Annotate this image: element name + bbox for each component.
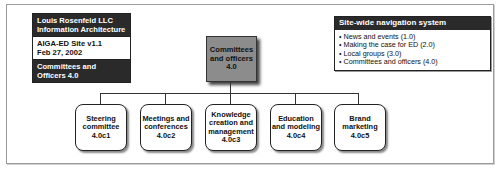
node-id: 4.0c3 xyxy=(206,136,256,144)
nav-title: Site-wide navigation system xyxy=(335,17,490,30)
child-node-meetings: Meetings and conferences 4.0c2 xyxy=(140,104,192,151)
connector-c4 xyxy=(295,93,296,104)
nav-item: Committees and officers (4.0) xyxy=(339,58,486,67)
root-node: Committees and officers 4.0 xyxy=(206,36,257,82)
info-box: Louis Rosenfeld LLC Information Architec… xyxy=(32,13,131,83)
connector-c5 xyxy=(358,93,359,104)
connector-c1 xyxy=(100,93,101,104)
child-node-steering: Steering committee 4.0c1 xyxy=(75,104,127,151)
node-id: 4.0c4 xyxy=(271,132,321,140)
date: Feb 27, 2002 xyxy=(37,48,82,57)
page-title: Committees and Officers 4.0 xyxy=(37,62,96,80)
site-version: AIGA-ED Site v1.1 xyxy=(37,39,102,48)
root-id: 4.0 xyxy=(207,63,256,72)
node-id: 4.0c2 xyxy=(141,132,191,140)
company-name: Louis Rosenfeld LLC xyxy=(37,16,113,25)
connector-root xyxy=(230,81,231,93)
child-node-brand: Brand marketing 4.0c5 xyxy=(334,104,386,151)
connector-c3 xyxy=(230,93,231,104)
nav-box: Site-wide navigation system News and eve… xyxy=(334,16,491,71)
connector-c2 xyxy=(165,93,166,104)
discipline: Information Architecture xyxy=(37,25,125,34)
node-id: 4.0c1 xyxy=(76,132,126,140)
child-node-education: Education and modeling 4.0c4 xyxy=(270,104,322,151)
node-id: 4.0c5 xyxy=(335,132,385,140)
child-node-knowledge: Knowledge creation and management 4.0c3 xyxy=(205,104,257,151)
